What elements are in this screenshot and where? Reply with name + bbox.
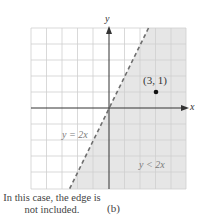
caption-line-1: In this case, the edge is (0, 192, 104, 204)
graph-canvas (0, 0, 203, 219)
y-axis-label: y (105, 14, 109, 24)
point-label: (3, 1) (143, 75, 167, 86)
caption: In this case, the edge is not included. (0, 192, 104, 216)
subfigure-label: (b) (107, 202, 120, 214)
region-inequality-label: y < 2x (139, 160, 165, 170)
point-3-1 (154, 90, 159, 95)
inequality-graph-figure: y x (3, 1) y = 2x y < 2x In this case, t… (0, 0, 203, 219)
x-axis-label: x (190, 102, 194, 112)
caption-line-2: not included. (0, 204, 104, 216)
boundary-equation-label: y = 2x (62, 130, 88, 140)
y-axis-arrow-icon (106, 26, 112, 34)
